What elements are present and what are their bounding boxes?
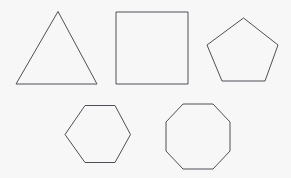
shapes-canvas bbox=[0, 0, 291, 178]
polygon-figure bbox=[0, 0, 291, 178]
canvas-background bbox=[0, 0, 291, 178]
